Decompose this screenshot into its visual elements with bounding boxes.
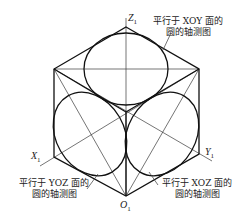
xoy-annotation-line2: 圆的轴测图 — [148, 27, 228, 38]
yoz-annotation-line2: 圆的轴测图 — [14, 189, 94, 200]
xoz-annotation-line2: 圆的轴测图 — [157, 189, 237, 200]
z-axis-subscript: 1 — [134, 18, 138, 26]
y-axis-subscript: 1 — [211, 152, 215, 160]
x-axis-label: X1 — [31, 150, 41, 166]
y-axis-label: Y1 — [205, 146, 214, 162]
yoz-annotation-line1: 平行于 YOZ 面的 — [14, 178, 94, 189]
xoz-annotation-line1: 平行于 XOZ 面的 — [157, 178, 237, 189]
z-axis-label: Z1 — [128, 12, 137, 28]
xoy-annotation: 平行于 XOY 面的 圆的轴测图 — [148, 16, 228, 38]
x-axis-subscript: 1 — [37, 156, 41, 164]
xoz-annotation: 平行于 XOZ 面的 圆的轴测图 — [157, 178, 237, 200]
origin-label: O1 — [120, 199, 131, 215]
cube-inner-edge-right — [126, 69, 199, 112]
cube-inner-edge-left — [54, 69, 126, 112]
xoy-annotation-line1: 平行于 XOY 面的 — [148, 16, 228, 27]
yoz-annotation: 平行于 YOZ 面的 圆的轴测图 — [14, 178, 94, 200]
origin-subscript: 1 — [127, 205, 131, 213]
